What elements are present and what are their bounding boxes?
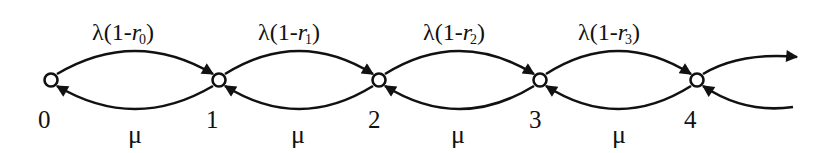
- state-node-3: [534, 74, 547, 87]
- state-node-1: [213, 74, 226, 87]
- backward-transition-4-3: [546, 86, 691, 109]
- backward-transition-2-1: [225, 86, 373, 109]
- state-label-2: 2: [368, 106, 381, 133]
- backward-rate-label-3: μ: [612, 120, 626, 149]
- backward-rate-label-2: μ: [451, 120, 465, 149]
- state-label-1: 1: [206, 106, 219, 133]
- backward-rate-label-0: μ: [128, 120, 142, 149]
- forward-rate-label-0: λ(1-r0): [92, 19, 154, 47]
- state-node-2: [373, 74, 386, 87]
- backward-transition-3-2: [385, 86, 534, 109]
- forward-transition-4-out: [703, 56, 797, 74]
- state-label-4: 4: [684, 106, 697, 133]
- backward-transition-1-0: [57, 86, 213, 109]
- forward-rate-label-2: λ(1-r2): [423, 19, 485, 47]
- state-label-0: 0: [38, 106, 51, 133]
- forward-transition-1-2: [225, 51, 373, 74]
- forward-transition-3-4: [546, 51, 691, 74]
- forward-transition-2-3: [385, 51, 534, 74]
- state-node-4: [691, 74, 704, 87]
- backward-transition-in-4: [703, 86, 793, 108]
- backward-rate-label-1: μ: [291, 120, 305, 149]
- forward-transition-0-1: [57, 51, 213, 74]
- state-node-0: [45, 74, 58, 87]
- state-label-3: 3: [529, 106, 542, 133]
- forward-rate-label-3: λ(1-r3): [578, 19, 640, 47]
- forward-rate-label-1: λ(1-r1): [258, 19, 320, 47]
- markov-chain-diagram: 0 1 2 3 4 λ(1-r0) λ(1-r1) λ(1-r2) λ(1-r3…: [0, 0, 834, 153]
